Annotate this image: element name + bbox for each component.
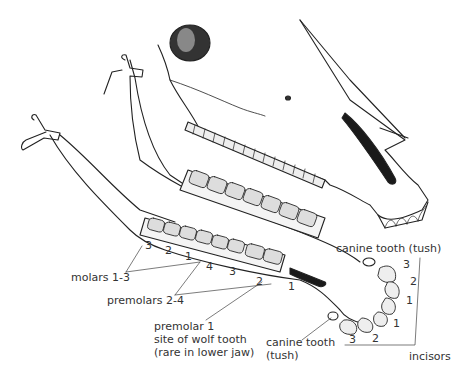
num-incisor-upper-2: 2	[410, 276, 417, 287]
label-premolar-1: premolar 1	[154, 320, 214, 333]
label-wolf-tooth: site of wolf tooth	[154, 333, 247, 346]
label-incisors: incisors	[409, 350, 451, 363]
label-premolars: premolars 2-4	[107, 294, 184, 307]
mandible-left	[22, 115, 400, 335]
label-canine-lower: canine tooth	[266, 336, 335, 349]
num-molar-3: 3	[145, 240, 152, 251]
num-molar-1: 1	[185, 251, 192, 262]
num-incisor-lower-2: 2	[372, 333, 379, 344]
num-premolar-2: 2	[256, 276, 263, 287]
num-premolar-4: 4	[206, 261, 213, 272]
num-incisor-upper-3: 3	[403, 259, 410, 270]
num-incisor-upper-1: 1	[406, 295, 413, 306]
num-incisor-lower-3: 3	[349, 334, 356, 345]
label-canine-upper: canine tooth (tush)	[336, 242, 441, 255]
num-molar-2: 2	[165, 245, 172, 256]
label-molars: molars 1-3	[71, 271, 130, 284]
num-premolar-3: 3	[229, 266, 236, 277]
num-incisor-lower-1: 1	[393, 318, 400, 329]
label-canine-lower-tush: (tush)	[266, 349, 299, 362]
num-premolar-1: 1	[288, 281, 295, 292]
label-wolf-tooth-note: (rare in lower jaw)	[154, 346, 254, 359]
